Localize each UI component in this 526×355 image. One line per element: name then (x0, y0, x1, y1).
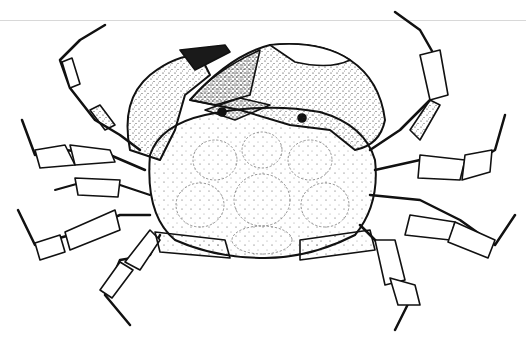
illustration-frame: Crab illustration, dorsal view, with lar… (0, 0, 526, 355)
crab-illustration (0, 0, 526, 355)
